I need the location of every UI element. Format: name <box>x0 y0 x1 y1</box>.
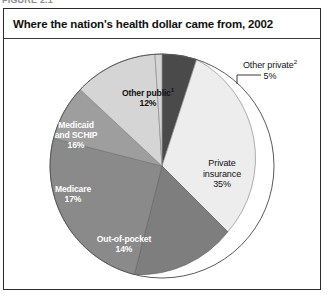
slice-label-private-insurance-name1: Private <box>208 158 235 168</box>
slice-label-medicaid-schip-name1: Medicaid <box>58 120 94 130</box>
slice-label-private-insurance: Private insurance 35% <box>180 158 264 190</box>
figure-panel: Where the nation's health dollar came fr… <box>3 8 321 290</box>
slice-label-private-insurance-name2: insurance <box>203 169 241 179</box>
slice-label-out-of-pocket-value: 14% <box>116 244 133 254</box>
slice-label-private-insurance-value: 35% <box>213 179 231 189</box>
slice-label-other-private: Other private2 5% <box>222 60 318 81</box>
slice-label-medicare-name: Medicare <box>55 184 91 194</box>
slice-label-medicare: Medicare 17% <box>34 184 112 204</box>
slice-label-other-private-value: 5% <box>264 71 277 81</box>
slice-label-medicaid-schip-value: 16% <box>68 140 85 150</box>
pie-chart: Other private2 5% Other public1 12% Medi… <box>4 38 320 289</box>
figure-title: Where the nation's health dollar came fr… <box>13 18 273 30</box>
clipped-caption-text: FIGURE 2.1 <box>2 0 53 5</box>
slice-label-medicaid-schip-name2: and SCHIP <box>55 130 98 140</box>
slice-label-out-of-pocket: Out-of-pocket 14% <box>78 234 170 254</box>
slice-label-out-of-pocket-name: Out-of-pocket <box>97 234 151 244</box>
slice-label-other-public-name: Other public <box>122 88 171 98</box>
slice-label-other-public-footnote: 1 <box>171 86 174 93</box>
slice-label-other-public: Other public1 12% <box>107 88 189 108</box>
slice-label-other-private-footnote: 2 <box>294 58 297 65</box>
slice-label-other-public-value: 12% <box>140 98 157 108</box>
slice-label-other-private-name: Other private <box>243 60 294 70</box>
slice-label-medicare-value: 17% <box>65 194 82 204</box>
clipped-caption-strip: FIGURE 2.1 <box>0 0 328 7</box>
slice-label-medicaid-schip: Medicaid and SCHIP 16% <box>34 120 118 150</box>
